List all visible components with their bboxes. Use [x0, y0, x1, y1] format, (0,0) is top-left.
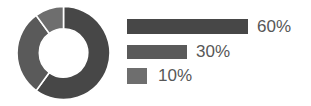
legend-item-label: 30%: [196, 43, 230, 60]
legend-swatch-bar: [127, 68, 147, 84]
legend-item-label: 60%: [257, 18, 291, 35]
chart-figure: 60% 30% 10%: [0, 0, 311, 106]
donut-chart-svg: [17, 6, 110, 100]
legend-swatch-bar: [127, 19, 248, 34]
legend-swatch-bar: [127, 45, 187, 59]
legend-item[interactable]: 10%: [127, 67, 192, 84]
legend-item[interactable]: 30%: [127, 43, 230, 60]
legend: 60% 30% 10%: [127, 18, 311, 94]
donut-chart: [17, 6, 110, 100]
donut-slice-group: [17, 7, 110, 100]
legend-item[interactable]: 60%: [127, 18, 291, 35]
legend-item-label: 10%: [158, 67, 192, 84]
